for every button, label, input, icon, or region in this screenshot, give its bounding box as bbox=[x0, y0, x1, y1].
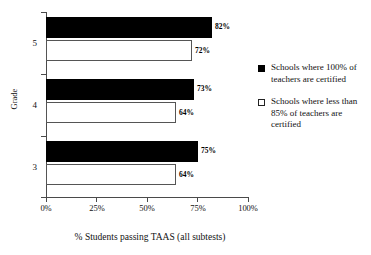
x-axis-label-100: 100% bbox=[228, 203, 268, 213]
y-axis-tick bbox=[41, 74, 46, 75]
x-axis-tick bbox=[147, 198, 148, 202]
y-axis-label-grade-5: 5 bbox=[24, 38, 37, 48]
bar-grade3-certified-less85 bbox=[46, 164, 176, 185]
x-axis-tick bbox=[197, 198, 198, 202]
chart-legend: Schools where 100% of teachers are certi… bbox=[258, 62, 370, 142]
y-axis-label-grade-3: 3 bbox=[24, 162, 37, 172]
bar-grade4-certified-less85 bbox=[46, 102, 176, 123]
empty-square-icon bbox=[258, 99, 265, 106]
legend-entry-certified-100: Schools where 100% of teachers are certi… bbox=[258, 62, 370, 85]
bar-grade5-certified-100 bbox=[46, 17, 212, 38]
x-axis-label-0: 0% bbox=[26, 203, 66, 213]
x-axis-tick bbox=[46, 198, 47, 202]
x-axis-label-50: 50% bbox=[127, 203, 167, 213]
bar-value-grade4-certified-100: 73% bbox=[197, 84, 212, 93]
bar-value-grade5-certified-100: 82% bbox=[215, 22, 230, 31]
bar-value-grade4-certified-less85: 64% bbox=[179, 108, 194, 117]
bar-value-grade3-certified-less85: 64% bbox=[179, 170, 194, 179]
x-axis-title: % Students passing TAAS (all subtests) bbox=[20, 231, 280, 243]
legend-label-certified-100: Schools where 100% of teachers are certi… bbox=[271, 62, 370, 85]
legend-label-certified-less85: Schools where less than 85% of teachers … bbox=[271, 96, 370, 131]
x-axis-label-75: 75% bbox=[178, 203, 218, 213]
bar-chart: 5 4 3 0% 25% 50% 75% 100% 82% 72% 73% 64… bbox=[0, 0, 371, 255]
bar-grade5-certified-less85 bbox=[46, 40, 192, 61]
y-axis-title: Grade bbox=[9, 69, 19, 129]
y-axis-tick bbox=[41, 12, 46, 13]
x-axis-tick bbox=[96, 198, 97, 202]
legend-entry-certified-less85: Schools where less than 85% of teachers … bbox=[258, 96, 370, 131]
y-axis-tick bbox=[41, 136, 46, 137]
bar-grade4-certified-100 bbox=[46, 79, 194, 100]
bar-value-grade5-certified-less85: 72% bbox=[195, 46, 210, 55]
x-axis-label-25: 25% bbox=[77, 203, 117, 213]
y-axis-label-grade-4: 4 bbox=[24, 100, 37, 110]
bar-value-grade3-certified-100: 75% bbox=[201, 146, 216, 155]
x-axis-tick bbox=[248, 198, 249, 202]
filled-square-icon bbox=[258, 65, 265, 72]
bar-grade3-certified-100 bbox=[46, 141, 198, 162]
